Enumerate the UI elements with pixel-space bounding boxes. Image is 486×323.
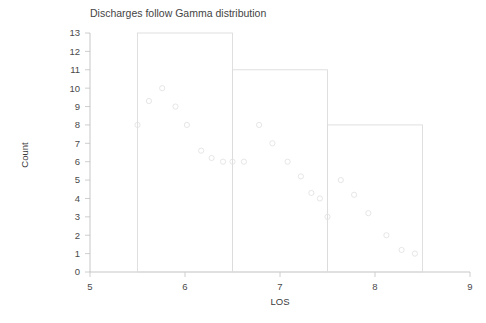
y-tick-label: 12 — [69, 46, 80, 57]
scatter-point-group — [135, 86, 418, 257]
scatter-point — [241, 159, 246, 164]
y-tick-label: 3 — [75, 211, 80, 222]
scatter-point — [317, 196, 322, 201]
x-tick-label: 5 — [87, 281, 92, 292]
scatter-point — [352, 192, 357, 197]
y-tick-label: 11 — [70, 64, 80, 75]
x-axis-label: LOS — [270, 296, 289, 307]
scatter-point — [309, 190, 314, 195]
histogram-bar — [328, 125, 423, 272]
y-tick-label: 1 — [75, 248, 80, 259]
scatter-point — [173, 104, 178, 109]
scatter-point — [384, 233, 389, 238]
scatter-point — [257, 122, 262, 127]
y-tick-label: 10 — [69, 83, 80, 94]
scatter-point — [220, 159, 225, 164]
x-tick-label: 7 — [277, 281, 282, 292]
y-tick-label: 13 — [69, 27, 80, 38]
y-tick-label: 6 — [75, 156, 80, 167]
y-tick-label: 4 — [75, 193, 80, 204]
scatter-point — [146, 98, 151, 103]
histogram-bar — [233, 70, 328, 272]
y-tick-label: 9 — [75, 101, 80, 112]
histogram-bar-group — [138, 33, 423, 272]
y-tick-label: 2 — [75, 230, 80, 241]
scatter-point — [184, 122, 189, 127]
y-tick-label: 7 — [75, 138, 80, 149]
chart-title: Discharges follow Gamma distribution — [90, 7, 266, 19]
scatter-point — [199, 148, 204, 153]
chart-container: Discharges follow Gamma distribution 012… — [0, 0, 486, 323]
y-tick-label: 5 — [75, 174, 80, 185]
x-tick-label: 6 — [182, 281, 187, 292]
scatter-point — [285, 159, 290, 164]
scatter-point — [270, 141, 275, 146]
y-tick-label: 8 — [75, 119, 80, 130]
histogram-bar — [138, 33, 233, 272]
scatter-point — [209, 155, 214, 160]
scatter-point — [399, 247, 404, 252]
x-tick-label: 8 — [372, 281, 377, 292]
scatter-point — [338, 177, 343, 182]
scatter-point — [366, 211, 371, 216]
scatter-point — [412, 251, 417, 256]
gamma-distribution-chart: Discharges follow Gamma distribution 012… — [0, 0, 486, 323]
x-tick-label: 9 — [467, 281, 472, 292]
scatter-point — [160, 86, 165, 91]
y-tick-label: 0 — [75, 266, 80, 277]
y-axis-label: Count — [19, 142, 30, 168]
scatter-point — [298, 174, 303, 179]
x-axis-tick-group: 56789 — [87, 272, 472, 292]
y-axis-tick-group: 012345678910111213 — [69, 27, 90, 277]
